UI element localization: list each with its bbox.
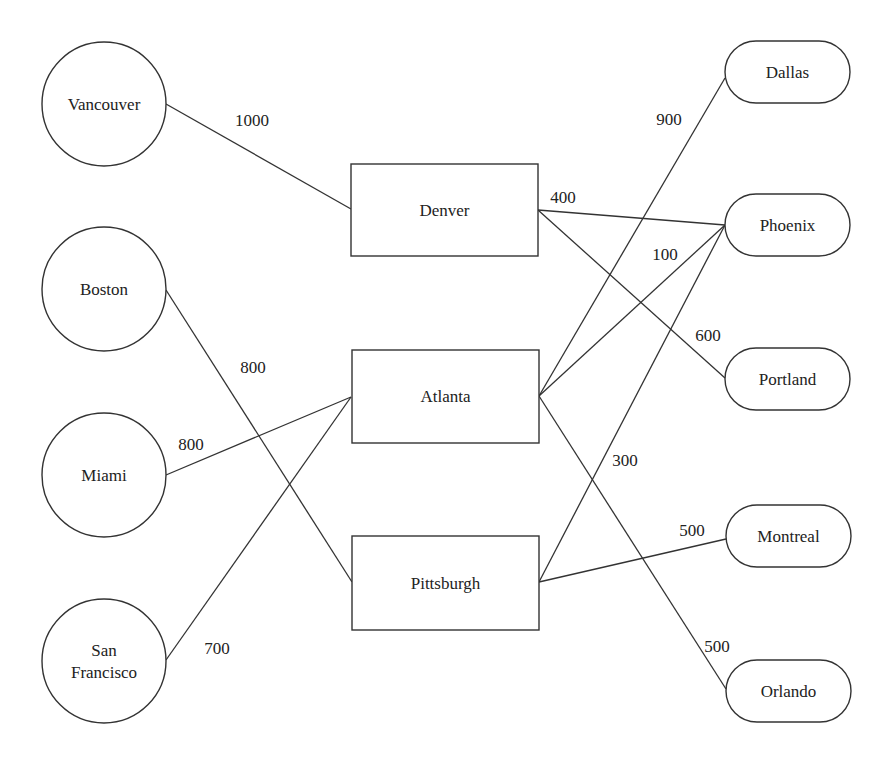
node-san-francisco: SanFrancisco [42, 599, 166, 723]
nodes-layer: VancouverBostonMiamiSanFranciscoDenverAt… [42, 41, 851, 723]
edge-denver-portland [538, 210, 725, 378]
node-phoenix-label: Phoenix [760, 216, 816, 235]
edge-weight-atlanta-phoenix: 100 [652, 245, 678, 264]
node-montreal-label: Montreal [757, 527, 820, 546]
edge-weight-vancouver-denver: 1000 [235, 111, 269, 130]
node-montreal: Montreal [726, 505, 851, 567]
node-boston-label: Boston [80, 280, 129, 299]
edge-weight-san-francisco-atlanta: 700 [204, 639, 230, 658]
node-portland-label: Portland [759, 370, 817, 389]
node-atlanta-label: Atlanta [420, 387, 470, 406]
edge-weight-pittsburgh-montreal: 500 [679, 521, 705, 540]
edge-denver-phoenix [538, 210, 725, 225]
node-miami-label: Miami [81, 466, 127, 485]
edge-atlanta-orlando [539, 396, 726, 689]
edge-weight-denver-portland: 600 [695, 326, 721, 345]
edge-weight-pittsburgh-phoenix: 300 [612, 451, 638, 470]
node-vancouver: Vancouver [42, 42, 166, 166]
node-atlanta: Atlanta [352, 350, 539, 443]
node-denver-label: Denver [419, 201, 469, 220]
node-san-francisco-label: Francisco [71, 663, 137, 682]
edge-weight-miami-atlanta: 800 [178, 435, 204, 454]
node-portland: Portland [725, 348, 850, 410]
node-orlando: Orlando [726, 660, 851, 722]
edge-weight-denver-phoenix: 400 [550, 188, 576, 207]
node-pittsburgh-label: Pittsburgh [411, 574, 481, 593]
edge-pittsburgh-montreal [539, 539, 726, 582]
edge-weight-atlanta-dallas: 900 [656, 110, 682, 129]
edge-atlanta-phoenix [539, 225, 725, 396]
node-boston: Boston [42, 227, 166, 351]
edge-weight-atlanta-orlando: 500 [704, 637, 730, 656]
node-denver: Denver [351, 164, 538, 256]
edge-atlanta-dallas [539, 78, 725, 396]
node-pittsburgh: Pittsburgh [352, 536, 539, 630]
edge-weight-boston-pittsburgh: 800 [240, 358, 266, 377]
node-dallas-label: Dallas [766, 63, 809, 82]
node-miami: Miami [42, 413, 166, 537]
node-orlando-label: Orlando [761, 682, 817, 701]
node-dallas: Dallas [725, 41, 850, 103]
node-vancouver-label: Vancouver [68, 95, 141, 114]
node-phoenix: Phoenix [725, 194, 850, 256]
network-diagram: VancouverBostonMiamiSanFranciscoDenverAt… [0, 0, 890, 757]
node-san-francisco-label: San [91, 641, 117, 660]
circle-shape [42, 599, 166, 723]
